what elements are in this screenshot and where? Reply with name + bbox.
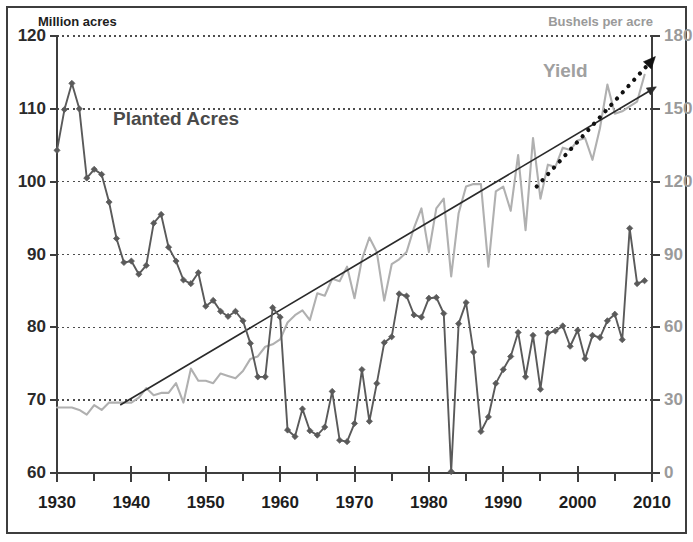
planted-marker [351,420,357,426]
x-tick-label-1980: 1980 [405,494,453,511]
planted-marker [113,235,119,241]
yield-polyline [57,75,645,415]
planted-marker [537,386,543,392]
x-tick-label-1950: 1950 [182,494,230,511]
planted-marker [470,349,476,355]
gridlines [57,36,652,473]
x-tick-label-1940: 1940 [107,494,155,511]
planted-marker [418,314,424,320]
series-markers-planted-acres [54,80,648,474]
planted-marker [69,80,75,86]
planted-marker [515,329,521,335]
x-tick-label-2010: 2010 [628,494,676,511]
yield_forecast_line [537,60,652,186]
planted-marker [54,147,60,153]
left-tick-label-120: 120 [18,27,46,44]
planted-marker [247,340,253,346]
right-tick-label-90: 90 [664,246,683,263]
planted-marker [627,225,633,231]
planted-marker [575,327,581,333]
left-tick-label-100: 100 [18,173,46,190]
right-tick-label-60: 60 [664,318,683,335]
planted-marker [396,291,402,297]
planted-marker [433,294,439,300]
planted-marker [366,418,372,424]
planted-marker [485,414,491,420]
planted-marker [582,356,588,362]
x-tick-label-1990: 1990 [479,494,527,511]
planted-marker [597,334,603,340]
planted-marker [530,332,536,338]
right-tick-label-120: 120 [664,173,692,190]
left-tick-label-110: 110 [19,100,46,117]
left-tick-label-70: 70 [27,391,46,408]
trend-line-yield [120,87,656,405]
x-tick-label-2000: 2000 [554,494,602,511]
planted-marker [359,366,365,372]
planted-marker [337,437,343,443]
right-tick-label-180: 180 [664,27,692,44]
x-tick-label-1960: 1960 [256,494,304,511]
yield_trend_line [120,89,652,405]
planted-marker [441,310,447,316]
chart-canvas [0,0,693,542]
planted-marker [463,299,469,305]
planted-marker [641,278,647,284]
yield_trend_line-arrowhead [646,87,656,95]
forecast-line-yield [537,57,656,187]
planted-marker [344,439,350,445]
planted-marker [121,259,127,265]
planted-marker [262,374,268,380]
planted-marker [255,374,261,380]
planted-marker [634,281,640,287]
planted-marker [61,106,67,112]
planted-marker [545,330,551,336]
planted-marker [589,332,595,338]
x-tick-label-1930: 1930 [33,494,81,511]
series-line-yield [57,75,645,415]
planted-marker [619,337,625,343]
planted-polyline [57,83,645,471]
planted-marker [299,406,305,412]
planted-marker [411,312,417,318]
planted-marker [76,106,82,112]
left-tick-label-90: 90 [27,246,46,263]
planted-marker [522,374,528,380]
right-tick-label-150: 150 [664,100,692,117]
planted-marker [456,321,462,327]
right-tick-label-0: 0 [664,464,673,481]
planted-marker [106,199,112,205]
left-tick-label-60: 60 [27,464,46,481]
series-line-planted-acres [57,83,645,471]
x-tick-label-1970: 1970 [331,494,379,511]
planted-marker [180,277,186,283]
planted-marker [403,293,409,299]
planted-marker [374,380,380,386]
planted-marker [329,388,335,394]
planted-marker [567,343,573,349]
planted-marker [426,295,432,301]
right-tick-label-30: 30 [664,391,683,408]
left-tick-label-80: 80 [27,318,46,335]
